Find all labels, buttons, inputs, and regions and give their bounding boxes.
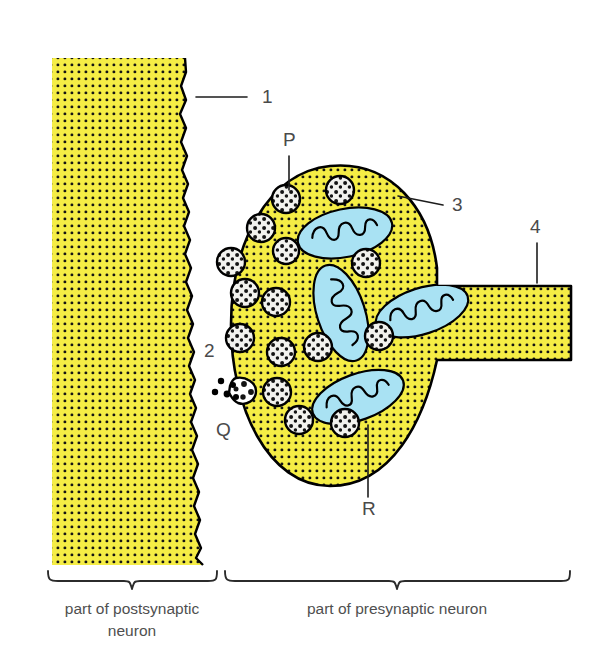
synaptic-vesicle xyxy=(272,185,300,213)
synaptic-vesicle xyxy=(285,406,313,434)
synaptic-vesicle xyxy=(262,288,290,316)
synaptic-vesicle xyxy=(326,176,354,204)
synaptic-vesicle xyxy=(226,324,254,352)
postsynaptic-cytoplasm xyxy=(52,58,203,565)
synaptic-vesicle xyxy=(273,238,299,264)
synaptic-vesicle xyxy=(231,279,259,307)
label-1: 1 xyxy=(262,86,273,107)
synaptic-vesicle xyxy=(247,214,275,242)
synapse-diagram: 1 2 3 4 P Q R part of postsynaptic neuro… xyxy=(0,0,609,663)
synaptic-vesicle xyxy=(217,248,245,276)
caption-postsynaptic-line2: neuron xyxy=(108,622,156,639)
caption-postsynaptic-line1: part of postsynaptic xyxy=(65,600,200,617)
synaptic-vesicle xyxy=(365,322,393,350)
synaptic-vesicle xyxy=(331,409,359,437)
postsynaptic-neuron xyxy=(52,58,203,565)
label-2: 2 xyxy=(204,340,215,361)
label-3: 3 xyxy=(452,194,463,215)
fusing-vesicle xyxy=(229,378,256,404)
label-r: R xyxy=(362,498,376,519)
synaptic-vesicle xyxy=(352,249,380,277)
caption-presynaptic: part of presynaptic neuron xyxy=(307,600,487,617)
diagram-canvas: 1 2 3 4 P Q R part of postsynaptic neuro… xyxy=(0,0,609,663)
synaptic-vesicle xyxy=(304,333,332,361)
label-4: 4 xyxy=(530,216,541,237)
synaptic-vesicle xyxy=(263,378,291,406)
synaptic-vesicle xyxy=(267,338,295,366)
label-p: P xyxy=(283,129,296,150)
label-q: Q xyxy=(216,419,231,440)
